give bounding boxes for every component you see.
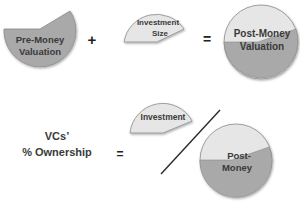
- vcs-ownership-line2: % Ownership: [22, 146, 92, 158]
- equals-sign-1: =: [203, 31, 211, 47]
- investment-size-label-line2: Size: [152, 29, 169, 38]
- pre-money-label-line1: Pre-Money: [16, 34, 65, 45]
- investment-size-label-line1: Investment: [137, 18, 180, 27]
- post-money-valuation-label-line1: Post-Money: [234, 28, 291, 39]
- equals-sign-2: =: [116, 147, 123, 161]
- pre-money-label-line2: Valuation: [19, 46, 61, 57]
- valuation-diagram: Pre-Money Valuation + Investment Size = …: [0, 0, 300, 202]
- plus-sign: +: [88, 31, 97, 48]
- post-money-label-line1: Post-: [227, 150, 251, 161]
- post-money-valuation-label-line2: Valuation: [240, 41, 284, 52]
- investment-label: Investment: [141, 112, 186, 122]
- vcs-ownership-line1: VCs’: [45, 130, 69, 142]
- post-money-label-line2: Money: [222, 162, 253, 173]
